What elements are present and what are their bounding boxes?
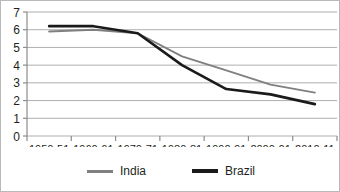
y-axis-tick-label: 1 [13, 112, 20, 126]
legend-label-brazil: Brazil [225, 164, 255, 178]
y-axis-tick-label: 4 [13, 59, 20, 73]
y-tick-labels-group: 01234567 [13, 6, 20, 144]
x-axis-tick-label: 1950-51 [29, 143, 69, 147]
legend-item-brazil: Brazil [192, 164, 255, 178]
x-axis-tick-label: 2010-11 [295, 143, 335, 147]
chart-legend: India Brazil [1, 151, 340, 191]
line-swatch-gray-icon [87, 170, 113, 173]
x-axis-tick-label: 2000-01 [250, 143, 290, 147]
line-swatch-black-icon [192, 169, 218, 173]
line-chart: 01234567 1950-511960-611970-711980-81199… [0, 0, 340, 192]
x-axis-tick-label: 1970-71 [118, 143, 158, 147]
y-axis-tick-label: 3 [13, 76, 20, 90]
y-axis-tick-label: 5 [13, 41, 20, 55]
y-axis-tick-label: 2 [13, 94, 20, 108]
plot-svg: 01234567 1950-511960-611970-711980-81199… [1, 1, 340, 147]
x-tick-marks-group [27, 136, 337, 141]
legend-label-india: India [120, 164, 146, 178]
x-axis-tick-label: 1980-81 [162, 143, 202, 147]
x-axis-tick-label: 1990-91 [206, 143, 246, 147]
x-axis-tick-label: 1960-61 [73, 143, 113, 147]
y-axis-tick-label: 7 [13, 6, 20, 20]
x-tick-labels-group: 1950-511960-611970-711980-811990-912000-… [29, 143, 335, 147]
y-axis-tick-label: 6 [13, 23, 20, 37]
plot-area: 01234567 1950-511960-611970-711980-81199… [1, 1, 340, 147]
y-axis-tick-label: 0 [13, 130, 20, 144]
legend-item-india: India [87, 164, 146, 178]
axis-lines-group [23, 12, 27, 136]
